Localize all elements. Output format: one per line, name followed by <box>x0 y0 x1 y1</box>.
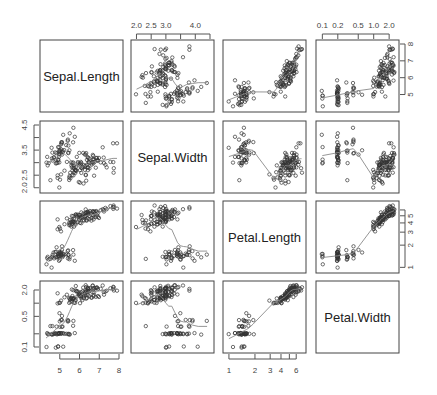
panel-sepal-length-vs-sepal-width <box>40 121 123 193</box>
data-point <box>159 62 162 65</box>
data-point <box>181 208 184 211</box>
data-point <box>134 93 137 96</box>
data-point <box>78 151 81 154</box>
data-point <box>300 171 303 174</box>
panel-petal-length-vs-petal-width <box>223 281 306 353</box>
lowess-smoother-line <box>137 295 208 326</box>
data-point <box>153 286 156 289</box>
tick-label: 2 <box>406 242 415 247</box>
data-point <box>351 126 354 129</box>
tick-label: 5 <box>58 366 63 375</box>
data-point <box>252 97 255 100</box>
data-point <box>182 266 185 269</box>
bottom-axis-petal-length: 12346 <box>227 354 299 375</box>
data-point <box>176 286 179 289</box>
data-point <box>247 314 250 317</box>
data-point <box>387 142 390 145</box>
data-point <box>233 92 236 95</box>
left-axis-sepal-width: 2.02.53.54.5 <box>20 119 39 193</box>
data-point <box>245 312 248 315</box>
data-point <box>227 146 230 149</box>
panel-sepal-width-vs-sepal-length <box>131 40 214 112</box>
data-point <box>46 155 49 158</box>
tick-label: 4 <box>279 366 284 375</box>
data-point <box>181 284 184 287</box>
data-point <box>182 345 185 348</box>
data-point <box>237 318 240 321</box>
data-point <box>62 345 65 348</box>
data-point <box>65 160 68 163</box>
tick-label: 6 <box>77 366 82 375</box>
data-point <box>71 141 74 144</box>
tick-label: 2.5 <box>20 169 29 181</box>
data-point <box>59 173 62 176</box>
data-point <box>351 81 354 84</box>
tick-label: 8 <box>406 41 415 46</box>
data-point <box>384 95 387 98</box>
tick-label: 3 <box>268 366 273 375</box>
data-point <box>299 167 302 170</box>
tick-label: 2.0 <box>131 21 143 30</box>
panels-layer: Sepal.LengthSepal.WidthPetal.LengthPetal… <box>40 40 399 353</box>
data-point <box>161 103 164 106</box>
panel-sepal-length-vs-sepal-length: Sepal.Length <box>40 40 123 112</box>
tick-label: 3.5 <box>20 144 29 156</box>
data-point <box>72 319 75 322</box>
data-point <box>82 182 85 185</box>
variable-label: Petal.Length <box>228 230 301 245</box>
data-point <box>58 178 61 181</box>
panel-petal-length-vs-petal-length: Petal.Length <box>223 201 306 273</box>
data-point <box>101 284 104 287</box>
data-point <box>196 252 199 255</box>
data-point <box>383 56 386 59</box>
data-point <box>352 257 355 260</box>
tick-label: 5 <box>406 213 415 218</box>
data-point <box>176 218 179 221</box>
data-point <box>111 142 114 145</box>
data-point <box>152 75 155 78</box>
data-point <box>49 179 52 182</box>
panel-sepal-length-vs-petal-width <box>40 281 123 353</box>
data-point <box>62 133 65 136</box>
data-point <box>156 90 159 93</box>
data-point <box>392 146 395 149</box>
data-point <box>231 345 234 348</box>
data-point <box>165 325 168 328</box>
data-point <box>144 324 147 327</box>
data-point <box>164 93 167 96</box>
panel-petal-length-vs-sepal-length <box>223 40 306 112</box>
data-point <box>321 105 324 108</box>
panel-frame <box>40 201 123 273</box>
data-point <box>162 54 165 57</box>
data-point <box>85 179 88 182</box>
data-point <box>252 318 255 321</box>
data-point <box>179 312 182 315</box>
data-point <box>372 168 375 171</box>
data-point <box>69 171 72 174</box>
data-point <box>45 345 48 348</box>
data-point <box>279 90 282 93</box>
data-point <box>346 179 349 182</box>
data-point <box>149 230 152 233</box>
data-point <box>274 186 277 189</box>
data-point <box>242 81 245 84</box>
data-point <box>134 225 137 228</box>
data-point <box>233 135 236 138</box>
data-point <box>184 318 187 321</box>
tick-label: 6 <box>406 75 415 80</box>
data-point <box>320 89 323 92</box>
left-axis-petal-width: 0.10.52.0 <box>20 284 39 353</box>
data-point <box>336 132 339 135</box>
data-point <box>238 179 241 182</box>
top-axis-petal-width: 0.10.20.51.02.0 <box>317 21 395 39</box>
data-point <box>65 293 68 296</box>
data-point <box>140 213 143 216</box>
data-point <box>252 140 255 143</box>
data-point <box>372 186 375 189</box>
data-point <box>68 132 71 135</box>
tick-label: 4 <box>406 220 415 225</box>
data-point <box>391 171 394 174</box>
data-point <box>231 105 234 108</box>
panel-petal-width-vs-petal-width: Petal.Width <box>316 281 399 353</box>
panel-frame <box>40 281 123 353</box>
